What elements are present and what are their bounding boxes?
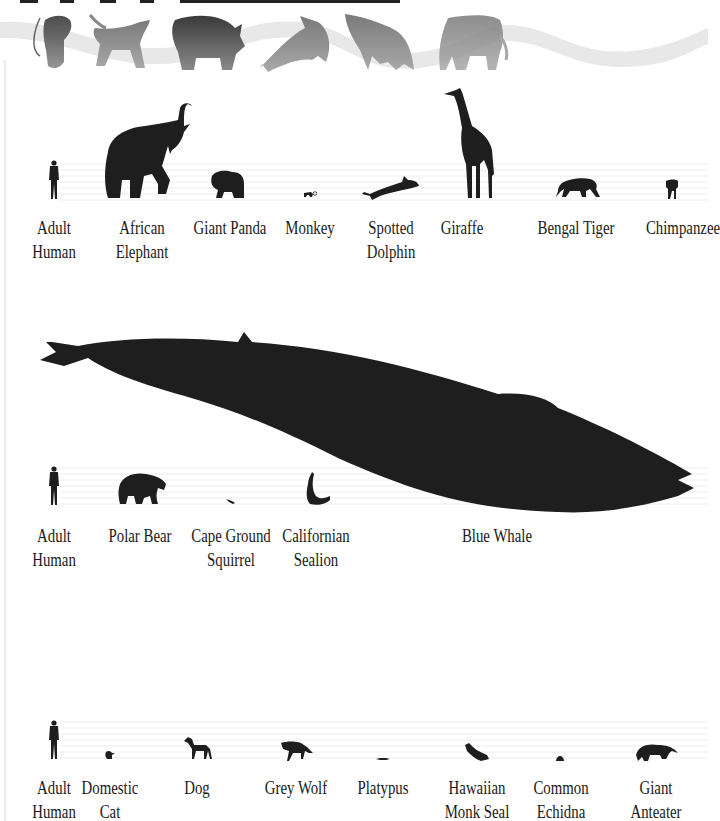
label-giant-panda: Giant Panda <box>194 216 267 240</box>
label-californian-sealion: CalifornianSealion <box>282 524 349 572</box>
header-banner <box>0 0 708 78</box>
californian-sealion-icon <box>306 472 332 506</box>
giraffe-icon <box>442 88 500 200</box>
label-domestic-cat: DomesticCat <box>82 776 139 821</box>
label-chimpanzee: Chimpanzee <box>646 216 720 240</box>
dog-icon <box>184 737 212 761</box>
hawaiian-monk-seal-icon <box>465 743 489 761</box>
rhinoceros-icon <box>172 16 245 70</box>
bengal-tiger-icon <box>556 177 602 199</box>
polar-bear-icon <box>118 472 168 506</box>
label-adult-human: AdultHuman <box>32 776 76 821</box>
label-giant-anteater: GiantAnteater <box>630 776 681 821</box>
label-bengal-tiger: Bengal Tiger <box>538 216 615 240</box>
chimpanzee-icon <box>664 179 680 199</box>
grey-wolf-icon <box>281 741 313 761</box>
label-adult-human: AdultHuman <box>32 216 76 264</box>
label-adult-human: AdultHuman <box>32 524 76 572</box>
domestic-cat-icon <box>105 750 115 759</box>
label-spotted-dolphin: SpottedDolphin <box>367 216 416 264</box>
adult-human-icon <box>47 160 61 200</box>
cape-ground-squirrel-icon <box>226 498 236 504</box>
comparison-row-3: AdultHuman DomesticCat Dog Grey Wolf Pla… <box>0 700 708 821</box>
bat-icon <box>345 14 414 70</box>
label-giraffe: Giraffe <box>441 216 484 240</box>
label-grey-wolf: Grey Wolf <box>265 776 327 800</box>
giant-panda-icon <box>210 170 246 200</box>
label-hawaiian-monk-seal: HawaiianMonk Seal <box>445 776 510 821</box>
elephant-icon <box>439 15 506 70</box>
label-dog: Dog <box>184 776 210 800</box>
spotted-dolphin-icon <box>362 174 420 200</box>
label-blue-whale: Blue Whale <box>462 524 532 548</box>
common-echidna-icon <box>556 756 564 761</box>
ground-lines <box>60 720 708 760</box>
comparison-row-1: AdultHuman AfricanElephant Giant Panda M… <box>0 80 708 280</box>
banner-ribbon <box>0 0 708 78</box>
label-common-echidna: CommonEchidna <box>533 776 588 821</box>
comparison-row-2: AdultHuman Polar Bear Cape GroundSquirre… <box>0 320 708 580</box>
adult-human-icon <box>47 720 61 760</box>
label-platypus: Platypus <box>357 776 408 800</box>
monkey-icon <box>303 190 317 198</box>
giant-anteater-icon <box>636 743 678 761</box>
african-elephant-icon <box>100 102 195 200</box>
label-cape-ground-squirrel: Cape GroundSquirrel <box>191 524 270 572</box>
adult-human-icon <box>47 466 61 506</box>
platypus-icon <box>376 757 390 761</box>
label-monkey: Monkey <box>285 216 334 240</box>
label-african-elephant: AfricanElephant <box>116 216 169 264</box>
label-polar-bear: Polar Bear <box>109 524 172 548</box>
